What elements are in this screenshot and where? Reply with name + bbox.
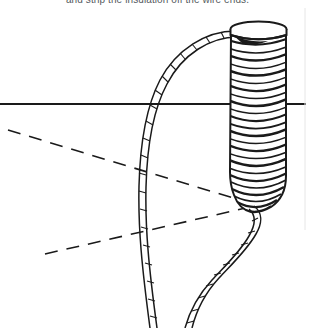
wire-coil-illustration [0,0,315,328]
lead-wire-upper [139,31,240,328]
figure-root: and strip the insulation off the wire en… [0,0,315,328]
wire-coil [228,22,289,213]
lead-wire-lower [185,206,261,328]
dashed-line-upper [8,130,250,203]
